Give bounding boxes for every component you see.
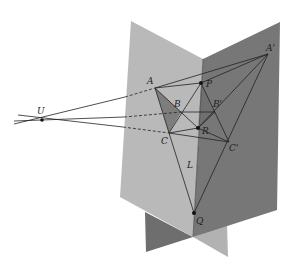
label-u: U xyxy=(37,106,45,116)
desargues-diagram: U A B C A' B' C' P R Q L xyxy=(0,0,294,269)
point-u xyxy=(40,118,44,122)
point-r xyxy=(196,126,200,130)
label-c: C xyxy=(161,136,168,146)
ray-ua xyxy=(14,97,125,124)
point-q xyxy=(192,211,196,215)
label-q: Q xyxy=(196,216,204,226)
label-b-prime: B' xyxy=(212,99,222,109)
ray-ub xyxy=(14,117,124,121)
label-p: P xyxy=(205,79,213,89)
label-a-prime: A' xyxy=(265,43,275,53)
label-a: A xyxy=(146,76,154,86)
label-r: R xyxy=(201,126,209,136)
point-p xyxy=(199,81,203,85)
label-l: L xyxy=(186,160,193,170)
label-b: B xyxy=(173,99,181,109)
label-c-prime: C' xyxy=(229,143,238,153)
ray-uc xyxy=(18,115,123,127)
